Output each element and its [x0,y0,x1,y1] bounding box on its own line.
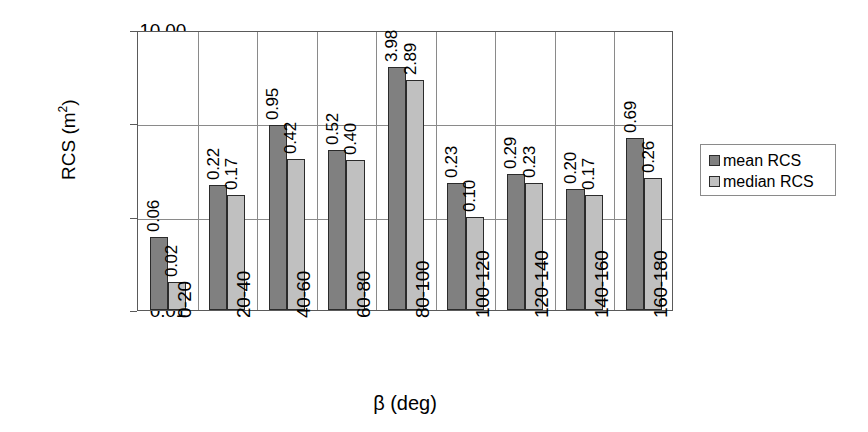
bar-value-label: 0.17 [579,158,599,190]
bar-mean[interactable] [566,189,584,310]
y-tick-mark [130,311,137,312]
bar-group: 0.950.42 [257,32,317,310]
x-axis-title: β (deg) [137,392,673,415]
legend-swatch-mean-icon [709,155,720,166]
bar-group: 0.220.17 [198,32,258,310]
bar-value-label: 0.06 [144,200,164,232]
legend-label-median: median RCS [723,173,814,191]
x-tick-label: 0-20 [174,281,196,318]
bar-value-label: 2.89 [401,43,421,75]
x-tick-label: 140-160 [591,250,613,318]
bar-value-label: 0.23 [442,146,462,178]
bar-value-label: 0.17 [222,158,242,190]
x-tick-label: 60-80 [353,271,375,318]
x-tick-label: 120-140 [531,250,553,318]
legend-swatch-median-icon [709,176,720,187]
bar-group: 0.060.02 [138,32,198,310]
x-tick-label: 20-40 [233,271,255,318]
bar-value-label: 0.29 [501,137,521,169]
rcs-bar-chart: RCS (m2) 0.010.101.0010.00 0.060.020.220… [0,0,868,432]
bar-value-label: 0.40 [341,124,361,156]
bar-mean[interactable] [328,150,346,310]
bar-value-label: 0.23 [520,146,540,178]
y-tick-mark [130,124,137,125]
bar-group: 0.520.40 [317,32,377,310]
bar-value-label: 0.69 [621,101,641,133]
bar-mean[interactable] [209,185,227,310]
bar-value-label: 0.42 [281,122,301,154]
bar-value-label: 0.22 [204,148,224,180]
bar-mean[interactable] [507,174,525,310]
x-tick-label: 160-180 [650,250,672,318]
bar-value-label: 0.52 [323,113,343,145]
y-axis-title: RCS (m2) [56,50,79,230]
legend-label-mean: mean RCS [723,152,801,170]
bar-value-label: 0.26 [639,141,659,173]
legend-item-mean: mean RCS [709,150,835,171]
y-tick-mark [130,31,137,32]
x-tick-label: 80-100 [412,261,434,318]
y-axis-title-tail: ) [58,99,79,105]
bar-value-label: 0.95 [263,89,283,121]
x-tick-label: 100-120 [472,250,494,318]
legend: mean RCS median RCS [700,144,836,196]
y-tick-mark [130,218,137,219]
bar-value-label: 0.10 [460,180,480,212]
y-axis-title-exponent: 2 [56,106,70,113]
legend-item-median: median RCS [709,171,835,192]
bar-value-label: 3.98 [382,30,402,62]
bar-value-label: 0.02 [162,245,182,277]
bar-mean[interactable] [388,67,406,310]
x-tick-label: 40-60 [293,271,315,318]
